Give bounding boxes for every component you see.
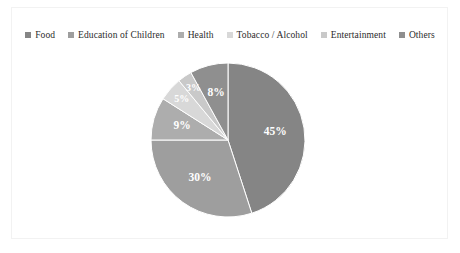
pie-slice-label-entertainment: 3% bbox=[186, 82, 201, 93]
pie-chart: 45%30%9%5%3%8% bbox=[150, 62, 306, 218]
pie-slices bbox=[151, 63, 305, 217]
pie-chart-area: 45%30%9%5%3%8% bbox=[0, 0, 460, 253]
pie-slice-label-others: 8% bbox=[207, 86, 224, 98]
pie-slice-label-food: 45% bbox=[264, 125, 287, 137]
pie-slice-label-health: 9% bbox=[174, 119, 191, 131]
pie-slice-label-tobacco-alcohol: 5% bbox=[174, 93, 189, 104]
pie-slice-label-education-of-children: 30% bbox=[188, 171, 211, 183]
